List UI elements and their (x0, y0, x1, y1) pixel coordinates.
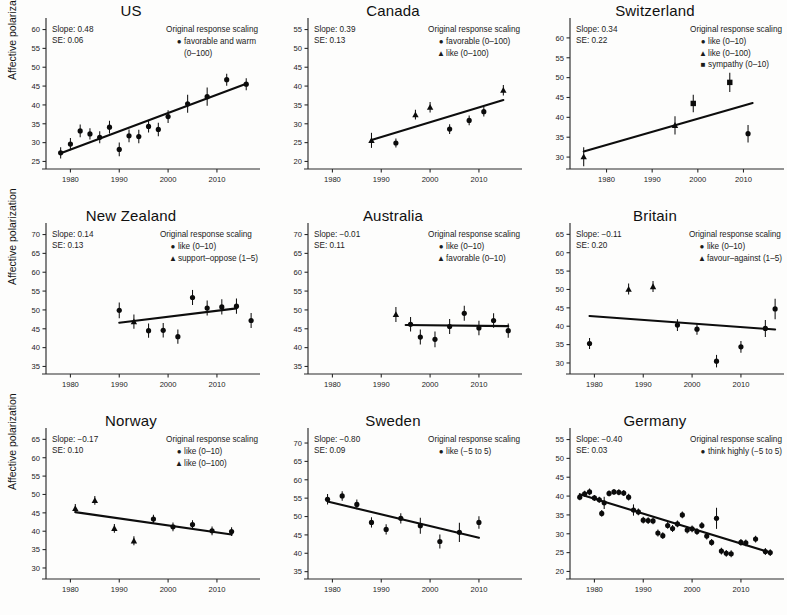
legend-item: ●like (0–10) (436, 241, 520, 252)
triangle-marker-icon: ▲ (436, 253, 446, 264)
y-tick-label: 55 (32, 472, 40, 481)
slope-value: −0.40 (602, 435, 623, 444)
data-point (131, 538, 137, 544)
stats-block: Slope: −0.17SE: 0.10 (52, 434, 98, 456)
legend-title: Original response scaling (690, 434, 782, 445)
y-tick-label: 20 (294, 157, 302, 166)
regression-fit-line (406, 325, 509, 326)
x-tick-label: 2000 (160, 380, 177, 389)
y-tick-label: 55 (32, 44, 40, 53)
legend: Original response scaling●like (0–10)▲fa… (428, 229, 520, 264)
x-tick-label: 2010 (208, 585, 225, 594)
legend: Original response scaling●like (0–10)▲li… (690, 24, 782, 71)
slope-label: Slope: (576, 25, 599, 34)
panel-new-zealand: New Zealand35404550556065701980199020002… (0, 205, 262, 410)
data-point (587, 489, 592, 494)
y-tick-label: 35 (32, 120, 40, 129)
data-point (714, 516, 719, 521)
x-tick-label: 1990 (635, 380, 652, 389)
data-point (481, 109, 486, 114)
data-point (680, 512, 685, 517)
x-tick-label: 2000 (422, 175, 439, 184)
x-tick-label: 1990 (635, 585, 652, 594)
y-tick-label: 50 (556, 454, 564, 463)
triangle-marker-icon: ▲ (168, 253, 178, 264)
circle-marker-icon: ● (174, 36, 184, 47)
y-tick-label: 25 (556, 548, 564, 557)
y-tick-label: 55 (294, 494, 302, 503)
data-point (190, 295, 195, 300)
legend: Original response scaling●like (0–10)▲li… (166, 434, 258, 469)
data-point (427, 104, 433, 110)
data-point (325, 497, 330, 502)
triangle-marker-icon: ▲ (436, 48, 446, 59)
data-point (229, 529, 234, 534)
legend-item: ▲favorable (0–10) (436, 253, 520, 264)
se-label: SE: (52, 36, 65, 45)
se-row: SE: 0.03 (576, 445, 622, 456)
y-tick-label: 55 (556, 435, 564, 444)
y-tick-label: 40 (556, 113, 564, 122)
y-tick-label: 35 (556, 133, 564, 142)
triangle-marker-icon: ▲ (698, 48, 708, 59)
y-tick-label: 45 (294, 531, 302, 540)
x-tick-label: 2000 (422, 585, 439, 594)
slope-value: −0.11 (602, 230, 622, 239)
data-point (476, 520, 481, 525)
legend: Original response scaling●think highly (… (690, 434, 782, 458)
legend-title: Original response scaling (166, 434, 258, 445)
legend-item-label: favorable and warm (184, 36, 256, 47)
data-point (727, 80, 732, 85)
regression-fit-line (584, 103, 753, 151)
data-point (646, 518, 651, 523)
slope-label: Slope: (52, 25, 75, 34)
square-marker-icon: ■ (698, 59, 708, 70)
x-tick-label: 1980 (598, 175, 615, 184)
slope-row: Slope: 0.34 (576, 24, 617, 35)
data-point (616, 490, 621, 495)
y-tick-label: 40 (32, 343, 40, 352)
stats-block: Slope: −0.11SE: 0.20 (576, 229, 622, 251)
y-tick-label: 70 (294, 439, 302, 448)
slope-value: −0.17 (78, 435, 99, 444)
data-point (146, 124, 151, 129)
legend-title: Original response scaling (428, 229, 520, 240)
legend-item-label: like (0–10) (708, 36, 746, 47)
y-tick-label: 50 (556, 285, 564, 294)
legend-title: Original response scaling (428, 24, 520, 35)
data-point (506, 328, 511, 333)
slope-label: Slope: (576, 435, 599, 444)
data-point (641, 518, 646, 523)
legend-item: ●favorable and warm (174, 36, 258, 47)
data-point (626, 495, 631, 500)
data-point (650, 283, 656, 289)
stats-block: Slope: 0.48SE: 0.06 (52, 24, 93, 46)
legend-item: ■sympathy (0–10) (698, 59, 782, 70)
y-tick-label: 45 (556, 93, 564, 102)
legend-item: ▲like (0–100) (174, 458, 258, 469)
data-points (580, 73, 750, 166)
y-tick-label: 50 (556, 73, 564, 82)
se-label: SE: (576, 446, 589, 455)
data-point (136, 134, 141, 139)
data-point (437, 539, 442, 544)
legend: Original response scaling●like (0–10)▲su… (160, 229, 258, 264)
legend-item-label: support–oppose (1–5) (178, 253, 258, 264)
legend-title: Original response scaling (690, 24, 782, 35)
data-point (111, 525, 117, 531)
data-point (724, 551, 729, 556)
data-point (156, 127, 161, 132)
legend-item-label: like (0–100) (708, 48, 751, 59)
data-point (773, 306, 778, 311)
x-tick-label: 2010 (732, 380, 749, 389)
x-tick-label: 2010 (208, 380, 225, 389)
y-tick-label: 55 (556, 54, 564, 63)
y-tick-label: 60 (556, 34, 564, 43)
y-tick-label: 55 (294, 287, 302, 296)
legend-item-label: favorable (0–10) (446, 253, 506, 264)
data-point (97, 135, 102, 140)
y-tick-label: 45 (556, 304, 564, 313)
data-point (185, 101, 190, 106)
se-row: SE: 0.09 (314, 445, 360, 456)
data-point (432, 337, 437, 342)
